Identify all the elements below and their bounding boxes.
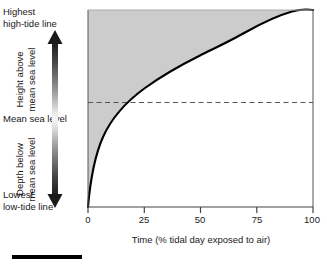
x-axis-title: Time (% tidal day exposed to air) bbox=[88, 234, 314, 245]
x-tick-label-50: 50 bbox=[180, 215, 220, 225]
tidal-exposure-figure: Highest high-tide line Mean sea level Lo… bbox=[0, 0, 327, 266]
x-tick-label-25: 25 bbox=[124, 215, 164, 225]
figure-bottom-rule bbox=[12, 255, 82, 259]
chart-plot-area: 0 25 50 75 100 Time (% tidal day exposed… bbox=[0, 0, 327, 266]
x-tick-label-75: 75 bbox=[237, 215, 277, 225]
x-tick-label-100: 100 bbox=[292, 215, 327, 225]
x-tick-label-0: 0 bbox=[68, 215, 108, 225]
